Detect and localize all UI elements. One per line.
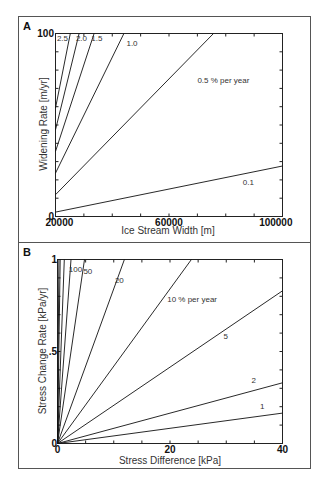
y-tick-label: 0 xyxy=(48,211,54,222)
series-line xyxy=(56,34,71,109)
y-tick-label: 1 xyxy=(51,254,57,265)
series-line xyxy=(58,383,283,444)
series-label: 2 xyxy=(252,376,257,385)
series-line xyxy=(58,260,85,444)
panel-b-chart: B 12510 % per year2050100 020400.51 Stre… xyxy=(23,246,288,466)
x-tick-label: 100000 xyxy=(259,217,293,228)
y-tick-label: 100 xyxy=(37,28,54,39)
series-label: 0.1 xyxy=(243,178,255,187)
series-label: 2.0 xyxy=(76,34,88,43)
series-line xyxy=(56,166,283,212)
panel-a-y-axis-label: Widening Rate [m/yr] xyxy=(38,77,49,171)
series-label: 100 xyxy=(69,265,83,274)
y-tick-label: 0 xyxy=(51,438,57,449)
series-line xyxy=(56,34,214,195)
panel-b-series-labels: 12510 % per year2050100 xyxy=(69,265,265,410)
x-tick-label: 20 xyxy=(164,444,176,455)
panel-a-label: A xyxy=(23,20,31,32)
series-label: 1.5 xyxy=(91,34,103,43)
panel-b-series xyxy=(58,260,283,444)
panel-a-x-axis-label: Ice Stream Width [m] xyxy=(121,225,215,236)
series-label: 5 xyxy=(223,332,228,341)
series-line xyxy=(58,413,283,443)
panel-b-label: B xyxy=(23,246,31,258)
series-label: 2.5 xyxy=(57,34,69,43)
panel-b-x-axis-label: Stress Difference [kPa] xyxy=(119,455,221,466)
panel-a-chart: A 0.10.5 % per year1.01.52.02.5 20000600… xyxy=(23,20,293,236)
x-tick-label: 40 xyxy=(277,444,289,455)
series-label: 1.0 xyxy=(126,39,138,48)
panel-b-y-axis-label: Stress Change Rate [kPa/yr] xyxy=(37,287,48,414)
figure: A 0.10.5 % per year1.01.52.02.5 20000600… xyxy=(0,0,325,479)
series-label: 0.5 % per year xyxy=(197,76,249,85)
series-line xyxy=(58,260,192,444)
panel-a-tick-labels: 20000600001000000100 xyxy=(37,28,293,228)
series-label: 10 % per year xyxy=(167,295,217,304)
y-tick-label: .5 xyxy=(49,346,58,357)
series-line xyxy=(58,260,125,444)
series-label: 1 xyxy=(260,402,265,411)
series-label: 20 xyxy=(115,276,124,285)
series-line xyxy=(58,291,283,444)
series-label: 50 xyxy=(83,267,92,276)
